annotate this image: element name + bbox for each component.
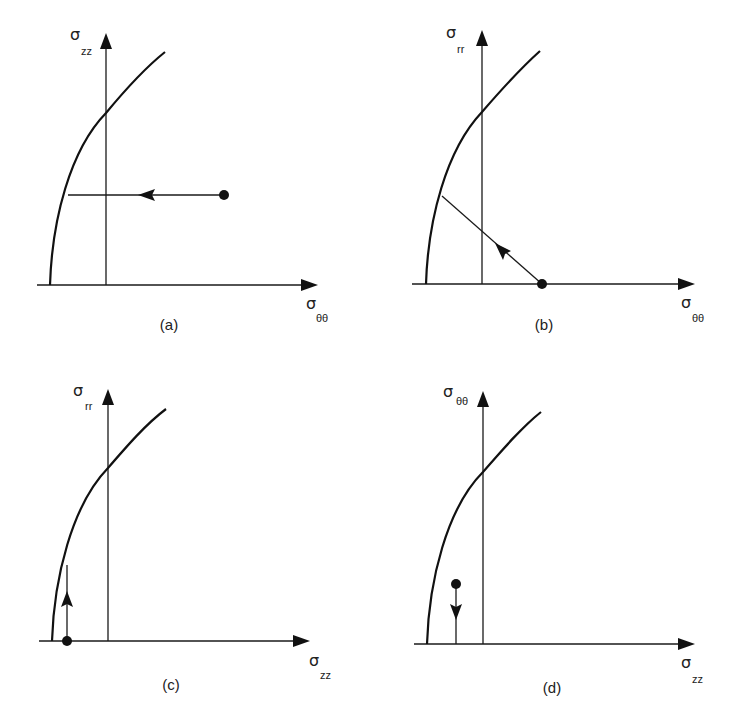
x-axis-symbol: σ	[681, 653, 691, 672]
x-axis-subscript: zz	[692, 673, 703, 685]
panel-caption: (a)	[160, 316, 178, 333]
yield-curve	[427, 412, 541, 644]
x-axis-arrow-icon	[301, 279, 318, 291]
y-axis-subscript: zz	[81, 45, 92, 57]
start-point	[219, 190, 229, 200]
y-axis-subscript: rr	[85, 400, 93, 412]
y-axis-subscript: θθ	[456, 395, 468, 407]
yield-curve	[52, 409, 166, 641]
y-axis-arrow-icon	[102, 389, 114, 405]
yield-curve	[426, 51, 540, 284]
start-point	[451, 579, 461, 589]
y-axis-arrow-icon	[100, 33, 112, 49]
x-axis-arrow-icon	[293, 635, 310, 647]
y-axis-arrow-icon	[477, 391, 489, 407]
panel-d: σ θθ σ zz (d)	[414, 382, 703, 696]
y-axis-symbol: σ	[443, 382, 453, 401]
x-axis-subscript: θθ	[692, 312, 704, 324]
x-axis-arrow-icon	[678, 278, 695, 290]
panel-caption: (c)	[162, 676, 180, 693]
x-axis-subscript: θθ	[316, 312, 328, 324]
start-point	[62, 636, 72, 646]
stress-path-figure: σ zz σ θθ (a) σ rr σ θθ (b) σ rr σ zz (c…	[0, 0, 731, 724]
y-axis-symbol: σ	[70, 25, 80, 44]
panel-caption: (b)	[535, 316, 553, 333]
yield-curve	[50, 52, 165, 285]
path-arrow-icon	[495, 243, 511, 260]
x-axis-symbol: σ	[681, 293, 691, 312]
x-axis-symbol: σ	[306, 294, 316, 313]
x-axis-arrow-icon	[678, 638, 695, 650]
y-axis-arrow-icon	[476, 30, 488, 46]
loading-path	[442, 196, 542, 284]
x-axis-symbol: σ	[309, 651, 319, 670]
start-point	[537, 279, 547, 289]
panel-a: σ zz σ θθ (a)	[37, 25, 328, 333]
panel-b: σ rr σ θθ (b)	[412, 23, 704, 333]
panel-caption: (d)	[543, 679, 561, 696]
y-axis-subscript: rr	[457, 43, 465, 55]
y-axis-symbol: σ	[446, 23, 456, 42]
y-axis-symbol: σ	[73, 381, 83, 400]
x-axis-subscript: zz	[320, 669, 331, 681]
panel-c: σ rr σ zz (c)	[39, 381, 331, 693]
